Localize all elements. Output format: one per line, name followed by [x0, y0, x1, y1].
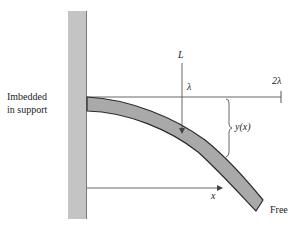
lambda-label: λ	[187, 82, 191, 92]
deflection-brace	[226, 99, 232, 157]
support-label-line1: Imbedded	[7, 92, 47, 102]
support-label-line2: in support	[7, 105, 47, 115]
free-label: Free	[270, 205, 288, 215]
deflection-label: y(x)	[235, 122, 251, 132]
x-label: x	[211, 191, 215, 201]
two-lambda-label: 2λ	[272, 76, 281, 86]
cantilever-diagram	[0, 0, 303, 232]
beam	[87, 97, 263, 211]
wall-support	[68, 11, 87, 219]
load-label: L	[178, 50, 184, 60]
